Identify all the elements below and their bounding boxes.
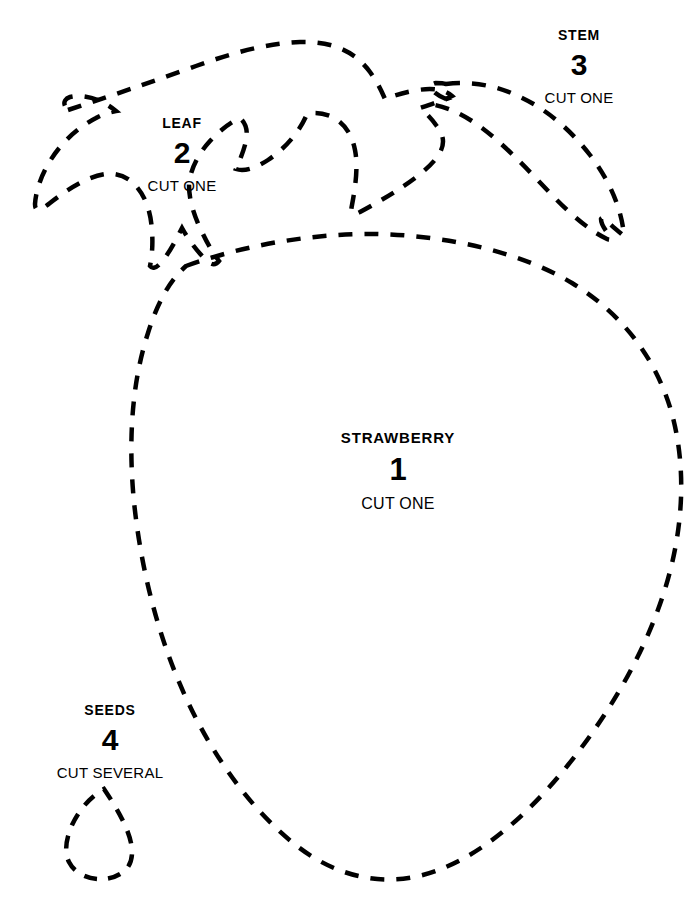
- strawberry-label-cut-instruction: CUT ONE: [278, 496, 518, 512]
- stem-label-name: STEM: [494, 28, 664, 42]
- stem-label-cut-instruction: CUT ONE: [494, 90, 664, 105]
- leaf-label-name: LEAF: [97, 116, 267, 130]
- strawberry-label-number: 1: [278, 454, 518, 485]
- strawberry-piece-label: STRAWBERRY 1 CUT ONE: [278, 430, 518, 512]
- leaf-label-number: 2: [97, 138, 267, 168]
- stem-cut-outline: [431, 83, 624, 240]
- leaf-label-cut-instruction: CUT ONE: [97, 178, 267, 193]
- leaf-piece-label: LEAF 2 CUT ONE: [97, 116, 267, 193]
- stem-piece-label: STEM 3 CUT ONE: [494, 28, 664, 105]
- stem-label-number: 3: [494, 50, 664, 80]
- strawberry-label-name: STRAWBERRY: [278, 430, 518, 445]
- seeds-label-cut-instruction: CUT SEVERAL: [22, 765, 198, 780]
- seeds-label-name: SEEDS: [22, 703, 198, 717]
- strawberry-cut-outline: [131, 234, 681, 880]
- seeds-piece-label: SEEDS 4 CUT SEVERAL: [22, 703, 198, 780]
- seeds-label-number: 4: [22, 725, 198, 755]
- seed-cut-outline: [66, 789, 132, 879]
- pattern-sheet: STRAWBERRY 1 CUT ONE LEAF 2 CUT ONE STEM…: [0, 0, 698, 901]
